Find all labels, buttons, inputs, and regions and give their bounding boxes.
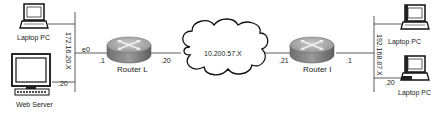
host-label: Web Server: [16, 101, 53, 108]
interface-ip-label: .20: [161, 57, 171, 64]
router-label: Router I: [303, 66, 331, 74]
laptop-icon: [401, 56, 429, 80]
cloud-label: 10.200.57.X: [204, 50, 242, 57]
laptop-icon: [20, 4, 48, 28]
host-label: Laptop PC: [17, 34, 50, 41]
host-label: Laptop PC: [388, 38, 421, 45]
subnet-label: 192.168.87.X: [376, 34, 383, 76]
left-lan-bus: [48, 12, 108, 92]
interface-ip-label: .1: [346, 57, 352, 64]
host-ip-label: .20: [58, 80, 68, 87]
wan-cloud: [183, 19, 268, 75]
interface-ip-label: .21: [279, 57, 289, 64]
laptop-icon: [401, 5, 429, 29]
router-icon: [290, 37, 334, 63]
host-label: Laptop PC: [398, 89, 431, 96]
interface-label: e0: [82, 46, 90, 53]
web-server-icon: [12, 54, 50, 95]
host-ip-label: .20: [385, 79, 395, 86]
router-icon: [107, 37, 151, 63]
router-label: Router L: [117, 66, 148, 74]
interface-ip-label: .1: [99, 57, 105, 64]
subnet-label: 172.16.20.X: [65, 32, 72, 70]
